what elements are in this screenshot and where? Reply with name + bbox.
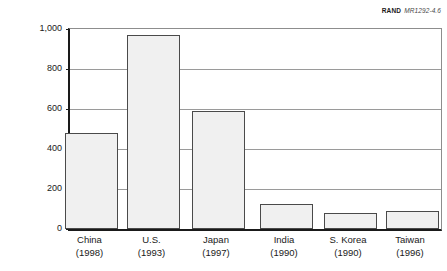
bar-india[interactable] — [260, 204, 313, 229]
gridline — [70, 189, 441, 190]
category-name: Taiwan — [370, 234, 447, 247]
y-axis-tick-mark — [66, 69, 70, 70]
y-axis-tick-mark — [66, 109, 70, 110]
plot-area — [68, 28, 442, 231]
source-credit: RAND MR1292-4.6 — [382, 7, 441, 14]
gridline — [70, 109, 441, 110]
gridline — [70, 149, 441, 150]
gridline — [70, 69, 441, 70]
y-axis-tick-mark — [66, 29, 70, 30]
y-axis-tick-label: 1,000 — [18, 23, 62, 33]
y-axis-tick-label: 400 — [18, 143, 62, 153]
bar-s-korea[interactable] — [324, 213, 377, 229]
category-year: (1996) — [370, 247, 447, 260]
bar-china[interactable] — [65, 133, 118, 229]
y-axis-tick-label: 600 — [18, 103, 62, 113]
bar-chart-figure: RAND MR1292-4.6 Number (in thousands) 02… — [0, 0, 447, 271]
x-axis-label-taiwan: Taiwan(1996) — [370, 234, 447, 259]
y-axis-tick-mark — [66, 229, 70, 230]
y-axis-tick-label: 800 — [18, 63, 62, 73]
y-axis-tick-label: 200 — [18, 183, 62, 193]
bar-taiwan[interactable] — [386, 211, 439, 229]
bar-japan[interactable] — [192, 111, 245, 229]
document-id-label: MR1292-4.6 — [404, 7, 441, 14]
bar-u-s[interactable] — [127, 35, 180, 229]
y-axis-tick-label: 0 — [18, 223, 62, 233]
rand-logo-text: RAND — [382, 7, 402, 14]
